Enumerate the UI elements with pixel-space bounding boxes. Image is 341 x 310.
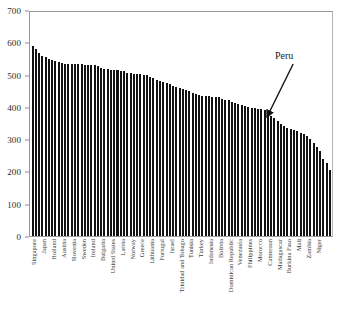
- bar: [110, 70, 112, 236]
- x-axis-tick-label: Indonesia: [208, 239, 214, 264]
- x-axis-tick-label: Turkey: [198, 239, 204, 257]
- x-axis-tick-label: Madagascar: [277, 239, 283, 270]
- bar: [277, 121, 279, 236]
- bar: [273, 118, 275, 236]
- bar: [100, 68, 102, 236]
- x-axis-tick-label: Austria: [61, 239, 67, 258]
- x-axis-tick-label: Latvia: [120, 239, 126, 255]
- x-axis-tick-label: Japan: [41, 239, 47, 254]
- bar: [264, 110, 266, 236]
- bar: [182, 89, 184, 236]
- x-axis-tick-label: United States: [110, 239, 116, 273]
- bar: [162, 82, 164, 236]
- bar: [247, 107, 249, 236]
- bar: [41, 56, 43, 236]
- bar: [208, 96, 210, 236]
- bar: [293, 130, 295, 236]
- bar: [58, 62, 60, 236]
- bar: [179, 88, 181, 236]
- bar: [107, 69, 109, 236]
- bar: [90, 65, 92, 236]
- x-axis-tick-label: Cameroon: [267, 239, 273, 266]
- bar: [224, 100, 226, 236]
- bar: [97, 66, 99, 236]
- x-axis-tick-label: Zambia: [306, 239, 312, 259]
- x-axis-tick-label: Tunisia: [188, 239, 194, 258]
- bar: [159, 81, 161, 236]
- x-axis-tick-label: Niger: [316, 239, 322, 254]
- bar: [143, 75, 145, 236]
- bar: [146, 75, 148, 236]
- bar: [123, 71, 125, 236]
- x-axis-tick-label: Bulgaria: [100, 239, 106, 261]
- x-axis-tick-label: Slovenia: [71, 239, 77, 261]
- bar: [260, 109, 262, 236]
- bar: [116, 70, 118, 236]
- y-axis-tick-label: 400: [7, 103, 21, 113]
- bar: [149, 77, 151, 236]
- bar: [35, 49, 37, 236]
- bar: [211, 97, 213, 236]
- bar: [218, 97, 220, 236]
- x-axis-tick-label: Venezuela: [237, 239, 243, 265]
- bar: [45, 57, 47, 236]
- bar: [237, 104, 239, 236]
- bar: [322, 159, 324, 236]
- bar: [67, 64, 69, 236]
- bar: [257, 109, 259, 236]
- bar: [228, 100, 230, 236]
- bar: [136, 74, 138, 236]
- bar: [201, 96, 203, 236]
- y-axis-tick-label: 600: [7, 38, 21, 48]
- bar: [198, 95, 200, 236]
- y-axis-tick-label: 0: [16, 232, 21, 242]
- x-axis-tick-label: Trinidad and Tobago: [179, 239, 185, 292]
- bar: [303, 134, 305, 236]
- bar: [74, 64, 76, 236]
- bar: [316, 147, 318, 236]
- bar: [156, 80, 158, 236]
- bar: [87, 65, 89, 236]
- x-axis-tick-label: Morocco: [257, 239, 263, 262]
- bar: [77, 64, 79, 236]
- bar: [51, 60, 53, 236]
- bar: [329, 170, 331, 236]
- bar: [286, 128, 288, 236]
- bar: [280, 124, 282, 236]
- bar: [169, 84, 171, 236]
- bar: [195, 94, 197, 236]
- bar: [84, 65, 86, 236]
- x-axis-tick-label: Portugal: [159, 239, 165, 261]
- bar: [300, 133, 302, 236]
- bar: [231, 102, 233, 236]
- bar: [172, 86, 174, 236]
- bar: [241, 105, 243, 236]
- chart-figure: 0100200300400500600700 SingaporeJapanHol…: [0, 0, 341, 310]
- x-axis-tick-label: Singapore: [31, 239, 37, 265]
- bar: [326, 163, 328, 236]
- x-axis-tick-label: Bolivia: [218, 239, 224, 258]
- bar: [71, 64, 73, 236]
- bar: [244, 106, 246, 236]
- y-axis-tick-label: 100: [7, 200, 21, 210]
- x-axis-tick-label: Norway: [130, 239, 136, 260]
- bar: [215, 97, 217, 236]
- annotation-peru-label: Peru: [275, 50, 293, 61]
- bar: [139, 74, 141, 236]
- x-axis: SingaporeJapanHollandAustriaSloveniaSwed…: [29, 239, 341, 310]
- x-axis-tick-label: Philippines: [247, 239, 253, 268]
- bar: [120, 71, 122, 236]
- bar: [185, 90, 187, 236]
- bar: [103, 69, 105, 236]
- bar: [152, 78, 154, 236]
- y-axis: 0100200300400500600700: [0, 0, 29, 310]
- x-axis-tick-label: Lithuania: [149, 239, 155, 264]
- bar: [296, 131, 298, 236]
- bar: [251, 108, 253, 236]
- bar: [64, 64, 66, 236]
- bar: [270, 116, 272, 236]
- bar: [54, 61, 56, 236]
- bar: [175, 87, 177, 236]
- x-axis-tick-label: Israel: [169, 239, 175, 253]
- y-axis-tick-label: 300: [7, 135, 21, 145]
